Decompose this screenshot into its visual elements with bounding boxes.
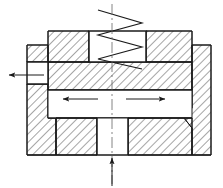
body-upper-right-block xyxy=(146,31,192,62)
valve-cross-section-svg xyxy=(0,0,223,188)
drawing-canvas xyxy=(0,0,223,188)
body-lower-right-block xyxy=(128,118,192,155)
inlet-bore xyxy=(97,118,128,155)
body-upper-left-block xyxy=(48,31,89,62)
spring-chamber xyxy=(89,31,146,62)
body-lower-left-block xyxy=(56,118,97,155)
left-flange xyxy=(27,45,48,62)
left-port-void xyxy=(27,62,48,84)
body-upper-left-block-lower xyxy=(48,62,192,90)
flow-passage xyxy=(48,90,192,118)
